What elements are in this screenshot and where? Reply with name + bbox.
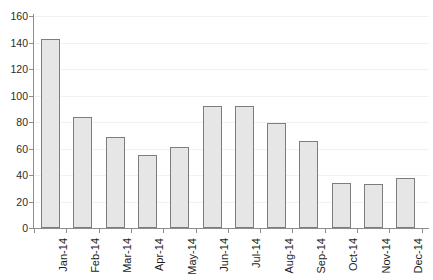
x-tick-label: Dec-14 [412,238,424,280]
x-tick-label: May-14 [186,238,198,280]
x-tick-label: Aug-14 [283,238,295,280]
x-tick-label: Apr-14 [153,238,165,280]
y-tick-mark [29,149,34,150]
y-tick-label-wrapper: 40 [0,170,28,180]
gridline [34,69,429,70]
gridline [34,175,429,176]
bar [73,117,92,228]
bar [203,106,222,228]
gridline [34,122,429,123]
x-tick-mark [357,229,358,233]
bar [138,155,157,228]
x-tick-mark [196,229,197,233]
x-tick-mark [99,229,100,233]
y-tick-label-wrapper: 60 [0,144,28,154]
gridline [34,43,429,44]
y-tick-label: 140 [0,38,28,48]
y-tick-label-wrapper: 80 [0,117,28,127]
x-tick-label: Oct-14 [347,238,359,280]
y-tick-mark [29,43,34,44]
y-tick-label-wrapper: 160 [0,11,28,21]
gridline [34,16,429,17]
gridline [34,96,429,97]
y-tick-label-wrapper: 0 [0,223,28,233]
x-tick-mark [163,229,164,233]
y-tick-label: 100 [0,91,28,101]
y-tick-label: 120 [0,64,28,74]
bar [170,147,189,228]
bar [364,184,383,228]
y-tick-label: 160 [0,11,28,21]
x-tick-label: Feb-14 [89,238,101,280]
bar [235,106,254,228]
x-tick-mark [325,229,326,233]
bar [41,39,60,228]
y-tick-mark [29,96,34,97]
y-tick-label: 80 [0,117,28,127]
x-tick-label: Jul-14 [250,238,262,280]
bar [396,178,415,228]
bar [267,123,286,228]
y-tick-label-wrapper: 100 [0,91,28,101]
y-tick-label-wrapper: 140 [0,38,28,48]
y-tick-label-wrapper: 20 [0,197,28,207]
x-tick-label: Nov-14 [380,238,392,280]
x-tick-mark [228,229,229,233]
x-tick-label: Jun-14 [218,238,230,280]
bar [106,137,125,228]
x-tick-mark [260,229,261,233]
x-tick-label: Jan-14 [57,238,69,280]
x-tick-mark [389,229,390,233]
x-tick-mark [34,229,35,233]
y-tick-mark [29,16,34,17]
x-tick-label: Mar-14 [121,238,133,280]
y-tick-mark [29,175,34,176]
x-tick-mark [422,229,423,233]
bar [299,141,318,228]
y-tick-label: 0 [0,223,28,233]
bar-chart: 020406080100120140160 Jan-14Feb-14Mar-14… [0,0,433,280]
y-tick-mark [29,202,34,203]
x-tick-mark [292,229,293,233]
x-tick-mark [66,229,67,233]
y-tick-mark [29,122,34,123]
x-axis-line [33,228,429,229]
x-tick-label: Sep-14 [315,238,327,280]
y-tick-label: 40 [0,170,28,180]
bar [332,183,351,228]
y-tick-label: 20 [0,197,28,207]
y-tick-label: 60 [0,144,28,154]
x-tick-mark [131,229,132,233]
y-tick-label-wrapper: 120 [0,64,28,74]
gridline [34,149,429,150]
y-tick-mark [29,69,34,70]
